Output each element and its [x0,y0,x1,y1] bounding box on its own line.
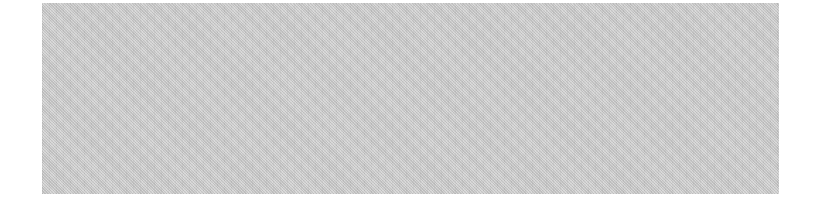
gray-placeholder-image [42,3,779,194]
page-canvas [0,0,825,220]
